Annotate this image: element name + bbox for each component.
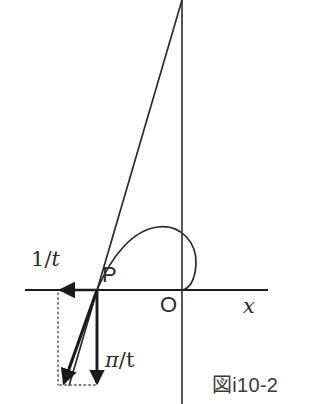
- label-pi-over-t: π/t: [105, 350, 134, 371]
- pi-over-t-denominator: t: [126, 348, 134, 372]
- label-axis-x: x: [243, 296, 255, 317]
- figure-caption: 図i10-2: [212, 375, 278, 395]
- pi-over-t-slash: /: [119, 348, 126, 372]
- one-over-t-denominator: t: [51, 247, 59, 271]
- label-origin-o: O: [160, 294, 177, 316]
- pi-over-t-numerator: π: [105, 348, 119, 372]
- figure-caption-symbol: 図: [212, 373, 232, 397]
- figure-caption-text: i10-2: [232, 374, 278, 396]
- background: [0, 0, 321, 404]
- one-over-t-numerator: 1: [31, 247, 44, 271]
- label-point-p: P: [102, 264, 117, 286]
- diagram-svg: [0, 0, 321, 404]
- label-one-over-t: 1/t: [31, 249, 60, 270]
- figure-canvas: 1/t π/t P O x 図i10-2: [0, 0, 321, 404]
